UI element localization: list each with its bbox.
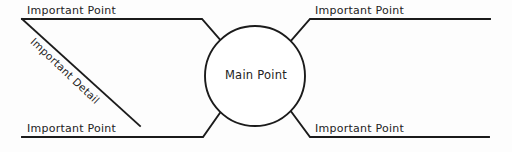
branch-label-bottom-right: Important Point <box>315 123 404 134</box>
connector-top-left <box>22 19 222 42</box>
branch-label-top-right: Important Point <box>315 5 404 16</box>
main-point-label: Main Point <box>0 70 512 82</box>
branch-label-top-left: Important Point <box>27 5 116 16</box>
connector-top-right <box>290 19 490 42</box>
concept-map-diagram: Important Point Important Point Importan… <box>0 0 512 152</box>
branch-label-bottom-left: Important Point <box>27 123 116 134</box>
